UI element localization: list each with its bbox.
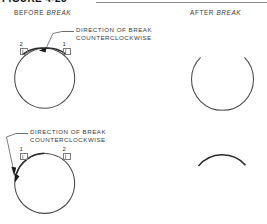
row1-before-ring (15, 48, 75, 108)
row1-note-leader-line (47, 32, 63, 48)
row1-terminal-label-2: 2 (20, 41, 24, 47)
row2-terminal-marker-1 (20, 153, 28, 160)
row1-terminal-marker-1 (63, 48, 71, 55)
row2-after-arc-segment (199, 155, 246, 166)
figure-canvas: FIGURE 4-23 BEFORE BREAK AFTER BREAK DIR… (0, 0, 267, 224)
row2-terminal-label-2: 2 (63, 146, 67, 152)
row1-after-open-ring (191, 57, 253, 110)
row2-terminal-marker-2 (63, 153, 71, 160)
row2-terminal-label-1: 1 (20, 146, 24, 152)
diagram-drawing-layer (0, 0, 267, 224)
row1-terminal-label-1: 1 (63, 41, 67, 47)
row1-terminal-marker-2 (20, 48, 28, 55)
row2-note-leader-line (7, 134, 17, 169)
